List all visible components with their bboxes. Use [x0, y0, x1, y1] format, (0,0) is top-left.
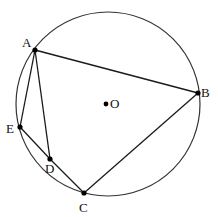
- geometry-diagram: A B C D E O: [0, 0, 218, 217]
- point-c: [81, 190, 86, 195]
- segment-cd: [50, 159, 84, 193]
- label-d: D: [45, 161, 54, 176]
- point-a: [32, 47, 37, 52]
- segment-ea: [20, 50, 35, 127]
- point-e: [17, 124, 22, 129]
- segment-ad: [35, 50, 50, 159]
- segment-bc: [84, 93, 198, 193]
- label-e: E: [6, 121, 14, 136]
- point-o: [104, 102, 109, 107]
- label-b: B: [201, 85, 210, 100]
- point-b: [195, 90, 200, 95]
- segment-ab: [35, 50, 198, 93]
- label-o: O: [110, 96, 119, 111]
- label-c: C: [79, 200, 88, 215]
- label-a: A: [22, 35, 32, 50]
